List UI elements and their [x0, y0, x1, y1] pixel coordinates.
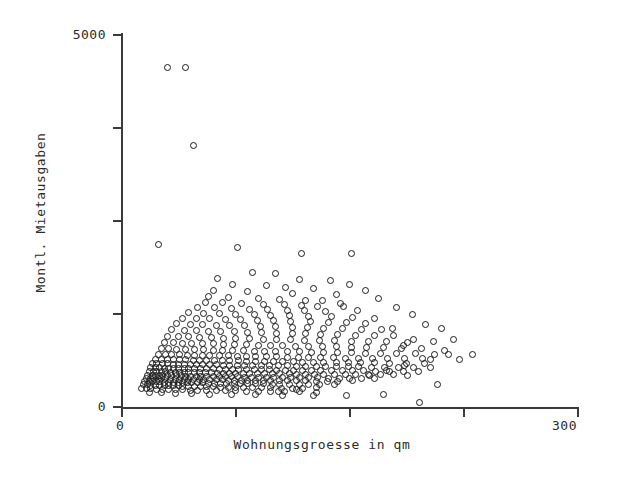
- scatter-point: [214, 275, 221, 282]
- scatter-point: [395, 364, 402, 371]
- scatter-point: [196, 334, 203, 341]
- scatter-point: [149, 360, 156, 367]
- scatter-point: [386, 368, 393, 375]
- scatter-point: [232, 384, 239, 391]
- scatter-point: [240, 347, 247, 354]
- scatter-point: [255, 342, 262, 349]
- scatter-point: [276, 296, 283, 303]
- scatter-point: [156, 382, 163, 389]
- scatter-point: [252, 358, 259, 365]
- scatter-point: [187, 387, 194, 394]
- y-axis-tick-5000: [113, 34, 121, 36]
- scatter-point: [331, 381, 338, 388]
- scatter-point: [152, 356, 159, 363]
- scatter-point: [156, 378, 163, 385]
- scatter-point: [276, 370, 283, 377]
- scatter-point: [342, 371, 349, 378]
- scatter-point: [393, 304, 400, 311]
- scatter-point: [232, 311, 239, 318]
- scatter-point: [377, 371, 384, 378]
- scatter-point: [390, 332, 397, 339]
- scatter-point: [363, 344, 370, 351]
- scatter-point: [320, 371, 327, 378]
- scatter-point: [220, 335, 227, 342]
- scatter-point: [143, 385, 150, 392]
- scatter-point: [143, 375, 150, 382]
- scatter-point: [167, 376, 174, 383]
- scatter-point: [172, 369, 179, 376]
- scatter-point: [378, 326, 385, 333]
- scatter-point: [158, 345, 165, 352]
- scatter-point: [252, 377, 259, 384]
- scatter-point: [172, 376, 179, 383]
- scatter-point: [144, 381, 151, 388]
- scatter-point: [235, 366, 242, 373]
- y-axis-title: Montl. Mietausgaben: [33, 113, 48, 313]
- scatter-point: [220, 370, 227, 377]
- scatter-point: [176, 351, 183, 358]
- scatter-point: [238, 377, 245, 384]
- scatter-point: [281, 388, 288, 395]
- scatter-point: [313, 378, 320, 385]
- scatter-point: [176, 369, 183, 376]
- scatter-point: [153, 378, 160, 385]
- scatter-point: [228, 391, 235, 398]
- scatter-point: [206, 352, 213, 359]
- scatter-point: [193, 327, 200, 334]
- scatter-point: [371, 332, 378, 339]
- scatter-point: [255, 295, 262, 302]
- scatter-point: [210, 373, 217, 380]
- scatter-point: [427, 356, 434, 363]
- scatter-point: [340, 303, 347, 310]
- scatter-point: [158, 375, 165, 382]
- scatter-point: [158, 389, 165, 396]
- scatter-point: [383, 367, 390, 374]
- scatter-point: [281, 301, 288, 308]
- scatter-point: [170, 365, 177, 372]
- scatter-point: [185, 309, 192, 316]
- scatter-point: [243, 366, 250, 373]
- scatter-point: [178, 372, 185, 379]
- scatter-point: [162, 351, 169, 358]
- scatter-point: [179, 386, 186, 393]
- scatter-point: [403, 360, 410, 367]
- scatter-point: [342, 355, 349, 362]
- scatter-point: [228, 305, 235, 312]
- scatter-point: [260, 301, 267, 308]
- scatter-point: [404, 372, 411, 379]
- scatter-point: [345, 363, 352, 370]
- scatter-point: [251, 348, 258, 355]
- scatter-point: [251, 311, 258, 318]
- scatter-point: [279, 358, 286, 365]
- scatter-point: [188, 379, 195, 386]
- scatter-point: [371, 315, 378, 322]
- scatter-point: [210, 347, 217, 354]
- scatter-point: [375, 295, 382, 302]
- scatter-point: [272, 323, 279, 330]
- scatter-point: [147, 375, 154, 382]
- scatter-point: [147, 364, 154, 371]
- scatter-point: [348, 338, 355, 345]
- scatter-point: [187, 321, 194, 328]
- scatter-point: [456, 356, 463, 363]
- scatter-point: [219, 357, 226, 364]
- scatter-point: [173, 372, 180, 379]
- scatter-point: [260, 336, 267, 343]
- scatter-point: [190, 357, 197, 364]
- scatter-point: [199, 321, 206, 328]
- scatter-point: [296, 388, 303, 395]
- scatter-point: [226, 370, 233, 377]
- scatter-point: [258, 362, 265, 369]
- scatter-point: [165, 379, 172, 386]
- scatter-point: [219, 347, 226, 354]
- scatter-point: [162, 368, 169, 375]
- scatter-point: [322, 363, 329, 370]
- scatter-point: [380, 391, 387, 398]
- scatter-point: [147, 385, 154, 392]
- scatter-point: [141, 378, 148, 385]
- scatter-point: [234, 244, 241, 251]
- scatter-point: [214, 370, 221, 377]
- scatter-point: [185, 376, 192, 383]
- x-axis-tick-300: [577, 409, 579, 417]
- scatter-point: [199, 379, 206, 386]
